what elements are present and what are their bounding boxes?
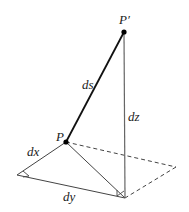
dz-edge: [124, 32, 125, 198]
label-dx: dx: [27, 144, 40, 159]
label-dy: dy: [63, 189, 76, 204]
label-ds: ds: [82, 77, 94, 92]
point-p-prime: [121, 29, 126, 34]
ds-line: [66, 32, 124, 142]
dashed-edge-p-r: [66, 142, 176, 167]
dx-edge: [17, 142, 66, 175]
label-p-prime: P′: [118, 12, 130, 27]
label-dz: dz: [128, 109, 140, 124]
diagram-canvas: P′ P ds dz dx dy: [0, 0, 189, 212]
label-p: P: [55, 129, 64, 144]
point-p: [63, 139, 68, 144]
dashed-edge-r-q: [125, 167, 176, 198]
